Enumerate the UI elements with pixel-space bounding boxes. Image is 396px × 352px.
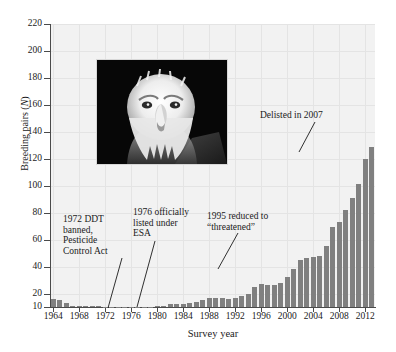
bar xyxy=(64,303,69,307)
bar xyxy=(77,306,82,307)
gridline-horizontal xyxy=(50,51,375,52)
gridline-horizontal xyxy=(50,24,375,25)
x-axis-title: Survey year xyxy=(50,328,376,339)
bar xyxy=(161,306,166,307)
bar xyxy=(350,198,355,307)
bar xyxy=(70,306,75,307)
bar xyxy=(285,277,290,307)
bar xyxy=(363,159,368,307)
bar xyxy=(187,303,192,307)
bar xyxy=(369,147,374,307)
bar xyxy=(239,296,244,307)
bar xyxy=(174,304,179,307)
y-axis-tick xyxy=(44,267,50,268)
annotation-esa-listing: 1976 officially listed under ESA xyxy=(133,207,203,239)
eagle-photo-artwork xyxy=(97,60,227,164)
y-axis-tick xyxy=(44,78,50,79)
bar xyxy=(96,306,101,307)
bar xyxy=(317,256,322,307)
bar xyxy=(272,285,277,307)
bar xyxy=(291,269,296,307)
y-axis-tick xyxy=(44,294,50,295)
bar xyxy=(304,258,309,307)
bar xyxy=(298,260,303,307)
y-axis-tick xyxy=(44,105,50,106)
bar xyxy=(252,287,257,307)
bar xyxy=(200,300,205,307)
x-axis-tick-label: 2012 xyxy=(345,311,385,322)
y-axis-tick-label: 220 xyxy=(2,19,42,29)
y-axis-tick xyxy=(44,159,50,160)
y-axis-title-text: Breeding pairs xyxy=(19,112,30,171)
annotation-ddt-ban: 1972 DDT banned, Pesticide Control Act xyxy=(63,214,125,256)
bar xyxy=(90,306,95,307)
bar xyxy=(220,298,225,307)
y-axis-tick xyxy=(44,307,50,308)
annotation-delisted: Delisted in 2007 xyxy=(260,110,360,121)
gridline-horizontal xyxy=(50,186,375,187)
y-axis-tick xyxy=(44,186,50,187)
annotation-delisted-leader xyxy=(297,122,319,154)
annotation-esa-listing-leader xyxy=(135,241,159,309)
y-axis-title-symbol: N xyxy=(19,100,30,107)
bar xyxy=(278,283,283,307)
gridline-vertical xyxy=(261,24,262,307)
bar xyxy=(181,304,186,307)
bar xyxy=(207,298,212,307)
bar xyxy=(324,246,329,307)
bar xyxy=(57,300,62,307)
bald-eagle-breeding-pairs-chart: 1020406080100120140160180200220 19641968… xyxy=(0,0,396,352)
bar xyxy=(356,184,361,307)
bar xyxy=(330,227,335,307)
y-axis-tick-label: 40 xyxy=(2,262,42,272)
gridline-vertical xyxy=(79,24,80,307)
bar xyxy=(213,298,218,307)
bar xyxy=(265,285,270,307)
bar xyxy=(226,299,231,307)
bar xyxy=(343,210,348,307)
bar xyxy=(51,299,56,307)
y-axis-tick-label: 20 xyxy=(2,289,42,299)
y-axis-tick-label: 60 xyxy=(2,235,42,245)
y-axis-tick xyxy=(44,24,50,25)
annotation-ddt-ban-leader xyxy=(106,258,130,310)
bar xyxy=(246,294,251,307)
bar xyxy=(83,306,88,307)
y-axis-tick xyxy=(44,51,50,52)
bar xyxy=(311,257,316,307)
annotation-threatened-leader xyxy=(216,233,242,271)
y-axis-tick xyxy=(44,240,50,241)
y-axis-tick xyxy=(44,213,50,214)
bar xyxy=(337,222,342,307)
x-axis-line xyxy=(50,307,376,308)
bar xyxy=(168,304,173,307)
bar xyxy=(259,284,264,307)
y-axis-line xyxy=(50,24,51,308)
bar xyxy=(194,302,199,307)
y-axis-tick xyxy=(44,132,50,133)
gridline-vertical xyxy=(53,24,54,307)
bald-eagle-photo-inset xyxy=(96,59,228,165)
bar xyxy=(233,298,238,307)
annotation-threatened: 1995 reduced to “threatened” xyxy=(207,211,291,232)
y-axis-title: Breeding pairs (N) xyxy=(19,54,30,214)
gridline-vertical xyxy=(287,24,288,307)
